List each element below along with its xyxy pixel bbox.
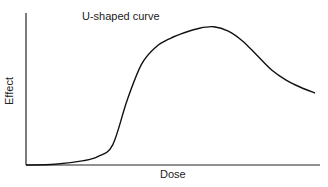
chart-plot — [0, 0, 328, 187]
u-shaped-curve-line — [26, 27, 315, 165]
curve-annotation: U-shaped curve — [82, 10, 160, 22]
x-axis-label: Dose — [160, 168, 186, 180]
y-axis-label: Effect — [3, 77, 15, 105]
